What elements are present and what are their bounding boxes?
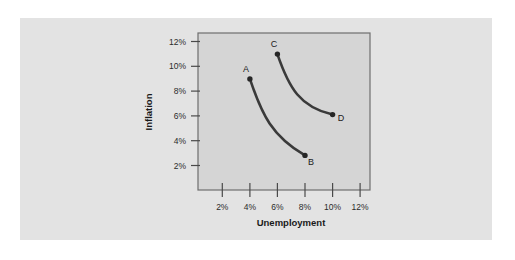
y-tick-label-4: 4% [174,136,187,146]
y-tick-label-12: 12% [169,37,186,47]
screenshot-root: 12% 10% 8% 6% 4% 2% 2% 4% 6% [0,0,515,260]
plot-area-background [198,33,370,190]
x-axis-title: Unemployment [257,217,326,228]
data-point-d [330,112,335,117]
chart-card: 12% 10% 8% 6% 4% 2% 2% 4% 6% [20,18,492,240]
data-point-label-d: D [338,113,345,123]
x-tick-label-2: 2% [216,202,229,212]
data-point-b [302,153,307,158]
chart-svg: 12% 10% 8% 6% 4% 2% 2% 4% 6% [20,18,492,240]
y-axis-title: Inflation [143,93,154,130]
y-tick-label-8: 8% [174,86,187,96]
y-tick-label-6: 6% [174,111,187,121]
x-tick-label-8: 8% [299,202,312,212]
y-tick-label-2: 2% [174,161,187,171]
x-tick-label-10: 10% [324,202,341,212]
data-point-label-c: C [271,39,278,49]
x-tick-label-4: 4% [244,202,257,212]
data-point-label-b: B [308,157,314,167]
x-tick-label-12: 12% [352,202,369,212]
data-point-a [247,76,252,81]
data-point-c [275,51,280,56]
y-tick-label-10: 10% [169,61,186,71]
phillips-curve-chart: 12% 10% 8% 6% 4% 2% 2% 4% 6% [20,18,492,240]
x-tick-label-6: 6% [271,202,284,212]
data-point-label-a: A [243,64,249,74]
